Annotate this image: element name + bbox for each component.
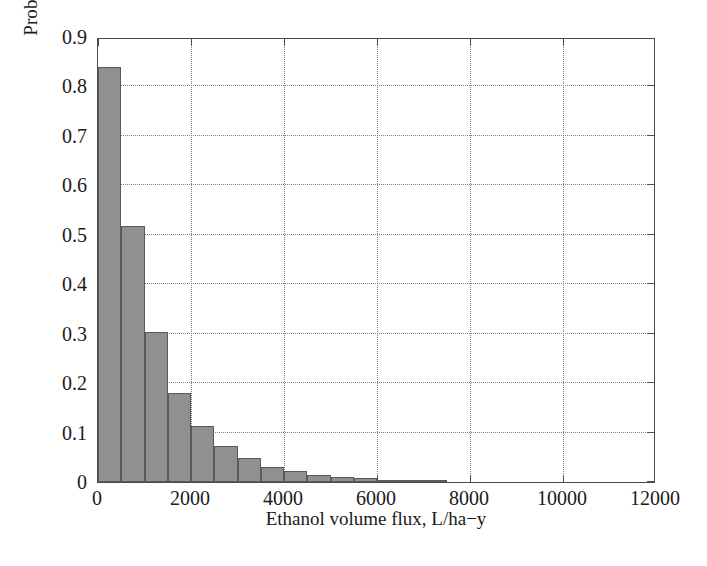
bar: [284, 471, 307, 482]
bar: [307, 475, 330, 482]
tick-mark-x: [563, 39, 564, 46]
tick-mark-x: [470, 475, 471, 482]
y-tick-label: 0.5: [35, 225, 87, 245]
plot-area: [97, 38, 655, 483]
gridline-horizontal: [98, 234, 654, 235]
bar: [331, 477, 354, 482]
tick-mark-y: [647, 184, 654, 185]
gridline-vertical: [377, 39, 378, 482]
tick-mark-x: [284, 39, 285, 46]
gridline-vertical: [284, 39, 285, 482]
gridline-horizontal: [98, 135, 654, 136]
plot-inner: [98, 39, 654, 482]
y-tick-label: 0.8: [35, 76, 87, 96]
y-tick-label: 0.2: [35, 373, 87, 393]
tick-mark-y: [647, 85, 654, 86]
tick-mark-x: [191, 39, 192, 46]
bar: [400, 480, 423, 482]
gridline-horizontal: [98, 382, 654, 383]
bar: [98, 67, 121, 482]
tick-mark-y: [647, 481, 654, 482]
tick-mark-y: [647, 234, 654, 235]
gridline-horizontal: [98, 85, 654, 86]
tick-mark-x: [563, 475, 564, 482]
bar: [214, 446, 237, 482]
bar: [145, 332, 168, 482]
y-tick-label: 0.4: [35, 274, 87, 294]
y-tick-label: 0.1: [35, 423, 87, 443]
bar: [168, 393, 191, 482]
gridline-vertical: [470, 39, 471, 482]
bar: [121, 226, 144, 482]
tick-mark-x: [377, 39, 378, 46]
gridline-horizontal: [98, 184, 654, 185]
tick-mark-y: [647, 135, 654, 136]
x-axis-label: Ethanol volume flux, L/ha−y: [97, 508, 655, 530]
bar: [238, 458, 261, 482]
bar: [261, 467, 284, 482]
y-tick-label: 0.9: [35, 27, 87, 47]
gridline-vertical: [191, 39, 192, 482]
y-tick-label: 0.6: [35, 175, 87, 195]
y-tick-label: 0.3: [35, 324, 87, 344]
figure-container: Prob(Flux>Abscissa) 00.10.20.30.40.50.60…: [0, 0, 707, 566]
tick-mark-y: [647, 283, 654, 284]
gridline-horizontal: [98, 283, 654, 284]
y-tick-label: 0.7: [35, 126, 87, 146]
tick-mark-y: [647, 333, 654, 334]
bar: [191, 426, 214, 482]
bar: [354, 478, 377, 482]
tick-mark-y: [647, 432, 654, 433]
x-tick-label: 12000: [595, 487, 707, 509]
tick-mark-x: [470, 39, 471, 46]
tick-mark-x: [98, 39, 99, 46]
tick-mark-y: [647, 382, 654, 383]
y-axis-label: Prob(Flux>Abscissa): [14, 0, 48, 124]
gridline-horizontal: [98, 333, 654, 334]
bar: [424, 480, 447, 482]
gridline-vertical: [563, 39, 564, 482]
bar: [377, 480, 400, 482]
